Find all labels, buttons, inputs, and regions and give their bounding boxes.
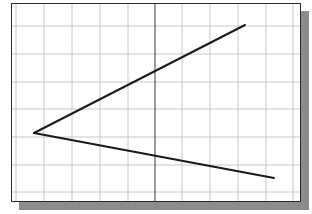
drawing-canvas bbox=[0, 0, 312, 214]
grid-lines bbox=[12, 4, 300, 201]
upper-line bbox=[34, 25, 245, 133]
